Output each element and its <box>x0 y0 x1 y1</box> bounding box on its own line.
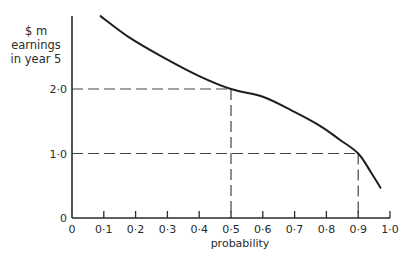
x-tick-label: 0·8 <box>318 223 336 236</box>
x-tick-label: 0 <box>69 223 76 236</box>
x-axis-label: probability <box>211 237 270 250</box>
dashed-guide-line <box>72 154 358 219</box>
x-tick-label: 1·0 <box>381 223 399 236</box>
earnings-curve <box>101 16 381 188</box>
x-tick-label: 0·5 <box>222 223 240 236</box>
guide-lines <box>72 89 358 218</box>
y-axis-label: $ m earnings in year 5 <box>11 24 62 66</box>
y-axis-label-line-1: $ m <box>25 24 47 38</box>
y-tick-label: 2·0 <box>50 83 68 96</box>
x-tick-label: 0·1 <box>95 223 113 236</box>
y-axis-ticks: 01·02·0 <box>50 83 68 225</box>
x-axis-ticks: 00·10·20·30·40·50·60·70·80·91·0 <box>69 211 399 236</box>
x-tick-label: 0·9 <box>349 223 367 236</box>
x-tick-label: 0·4 <box>190 223 208 236</box>
chart: $ m earnings in year 5 00·10·20·30·40·50… <box>0 0 406 258</box>
x-tick-label: 0·6 <box>254 223 272 236</box>
x-tick-label: 0·7 <box>286 223 304 236</box>
y-axis-label-line-3: in year 5 <box>11 52 62 66</box>
y-tick-label: 1·0 <box>50 148 68 161</box>
x-tick-label: 0·3 <box>159 223 177 236</box>
y-axis-label-line-2: earnings <box>11 38 61 52</box>
y-tick-label: 0 <box>60 212 67 225</box>
x-tick-label: 0·2 <box>127 223 145 236</box>
